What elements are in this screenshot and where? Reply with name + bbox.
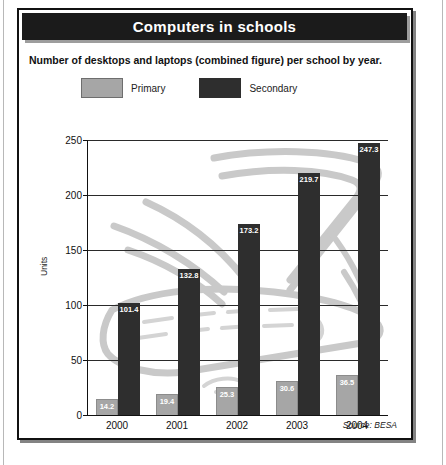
source-note: Source: BESA (343, 420, 397, 430)
figure-frame: Computers in schools Number of desktops … (17, 8, 413, 440)
bar-primary-2002[interactable]: 25.3 (216, 387, 238, 415)
y-axis-label: Units (39, 257, 49, 276)
y-axis-tick-label: 250 (65, 135, 82, 146)
bar-secondary-2003[interactable]: 219.7 (298, 173, 320, 415)
bar-value-label: 36.5 (340, 379, 355, 387)
bar-secondary-2001[interactable]: 132.8 (178, 269, 200, 415)
bar-secondary-2000[interactable]: 101.4 (118, 303, 140, 415)
bar-value-label: 30.6 (280, 385, 295, 393)
bar-value-label: 132.8 (180, 272, 199, 280)
legend-swatch-secondary-icon (199, 78, 241, 98)
x-axis-tick-label: 2001 (149, 420, 205, 431)
page-title: Computers in schools (133, 18, 297, 35)
bar-value-label: 101.4 (120, 306, 139, 314)
legend-label-primary: Primary (131, 83, 165, 94)
bar-group: 25.3173.2 (216, 140, 260, 415)
y-axis-tick-label: 150 (65, 245, 82, 256)
page-background: Computers in schools Number of desktops … (0, 0, 446, 465)
bar-value-label: 14.2 (100, 403, 115, 411)
bar-primary-2000[interactable]: 14.2 (96, 399, 118, 415)
chart-legend: Primary Secondary (81, 78, 411, 98)
y-axis-tick-label: 50 (71, 355, 82, 366)
y-axis-tick-label: 200 (65, 190, 82, 201)
figure-title-bar: Computers in schools (22, 13, 407, 40)
x-axis-tick-label: 2000 (89, 420, 145, 431)
bar-value-label: 19.4 (160, 398, 175, 406)
bar-group: 30.6219.7 (276, 140, 320, 415)
page-rule-right (442, 0, 443, 465)
bar-primary-2004[interactable]: 36.5 (336, 375, 358, 415)
bar-value-label: 173.2 (240, 227, 259, 235)
legend-label-secondary: Secondary (249, 83, 297, 94)
bar-value-label: 247.3 (360, 146, 379, 154)
bar-secondary-2004[interactable]: 247.3 (358, 143, 380, 415)
plot-area-wrapper: Units (19, 128, 411, 438)
bar-value-label: 25.3 (220, 391, 235, 399)
legend-item-secondary: Secondary (199, 78, 297, 98)
bar-group: 14.2101.4 (96, 140, 140, 415)
bar-value-label: 219.7 (300, 176, 319, 184)
bar-group: 19.4132.8 (156, 140, 200, 415)
bar-series-container: 14.2101.419.4132.825.3173.230.6219.736.5… (88, 140, 388, 415)
legend-swatch-primary-icon (81, 78, 123, 98)
x-axis-tick-label: 2002 (209, 420, 265, 431)
x-axis-tick-label: 2003 (269, 420, 325, 431)
plot-area: 14.2101.419.4132.825.3173.230.6219.736.5… (87, 140, 388, 416)
bar-group: 36.5247.3 (336, 140, 380, 415)
figure-subtitle: Number of desktops and laptops (combined… (29, 54, 411, 66)
y-axis-tick-label: 100 (65, 300, 82, 311)
y-axis-tick-label: 0 (76, 410, 82, 421)
bar-primary-2003[interactable]: 30.6 (276, 381, 298, 415)
page-rule-left (3, 0, 4, 465)
y-axis-tick-mark (83, 415, 88, 416)
bar-secondary-2002[interactable]: 173.2 (238, 224, 260, 415)
legend-item-primary: Primary (81, 78, 165, 98)
bar-primary-2001[interactable]: 19.4 (156, 394, 178, 415)
